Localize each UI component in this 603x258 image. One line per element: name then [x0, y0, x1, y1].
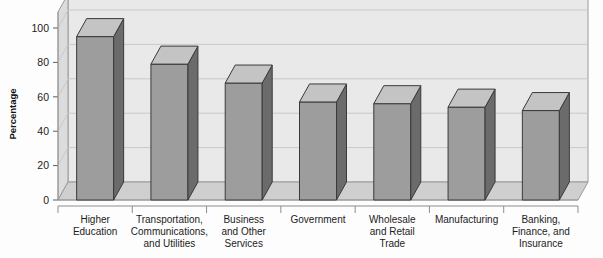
chart-left-wall	[58, 0, 68, 200]
bar-side-face	[114, 19, 124, 200]
ytick-label-60: 60	[37, 91, 49, 103]
bar-side-face	[188, 46, 198, 200]
xtick-label-line: Manufacturing	[435, 214, 498, 225]
xtick-label-line: Trade	[379, 238, 405, 249]
y-axis-title: Percentage	[7, 88, 18, 139]
xtick-label-line: Communications,	[131, 226, 208, 237]
ytick-label-40: 40	[37, 125, 49, 137]
xtick-label-group-1: HigherEducation	[73, 214, 117, 237]
xtick-label-line: Finance, and	[512, 226, 570, 237]
bar-front-face	[77, 37, 114, 200]
bar-7[interactable]	[522, 93, 569, 200]
xtick-label-group-4: Government	[290, 214, 345, 225]
xtick-label-line: Education	[73, 226, 117, 237]
ytick-label-20: 20	[37, 159, 49, 171]
xtick-label-group-6: Manufacturing	[435, 214, 498, 225]
bar-front-face	[300, 102, 337, 200]
chart-canvas: 020406080100HigherEducationTransportatio…	[0, 0, 603, 258]
xtick-label-line: Government	[290, 214, 345, 225]
xtick-label-line: Higher	[80, 214, 110, 225]
xtick-label-line: Transportation,	[136, 214, 203, 225]
bar-side-face	[411, 86, 421, 200]
xtick-label-group-5: Wholesaleand RetailTrade	[369, 214, 416, 249]
bar-6[interactable]	[448, 89, 495, 200]
xtick-label-line: and Retail	[370, 226, 415, 237]
xtick-label-line: Insurance	[519, 238, 563, 249]
bar-front-face	[522, 111, 559, 200]
bar-front-face	[151, 64, 188, 200]
ytick-label-80: 80	[37, 56, 49, 68]
xtick-label-group-3: Businessand OtherServices	[221, 214, 266, 249]
bar-side-face	[262, 65, 272, 200]
bar-side-face	[485, 89, 495, 200]
xtick-label-line: Services	[225, 238, 263, 249]
ytick-label-0: 0	[43, 194, 49, 206]
xtick-label-line: Wholesale	[369, 214, 416, 225]
bar-side-face	[337, 84, 347, 200]
bar-3[interactable]	[225, 65, 272, 200]
bar-2[interactable]	[151, 46, 198, 200]
xtick-label-group-2: Transportation,Communications,and Utilit…	[131, 214, 208, 249]
xtick-label-line: Banking,	[521, 214, 560, 225]
bar-front-face	[374, 104, 411, 200]
xtick-label-group-7: Banking,Finance, andInsurance	[512, 214, 570, 249]
bar-chart: 020406080100HigherEducationTransportatio…	[0, 0, 603, 258]
bar-front-face	[448, 107, 485, 200]
xtick-label-line: and Other	[221, 226, 266, 237]
bar-front-face	[225, 83, 262, 200]
xtick-label-line: and Utilities	[144, 238, 196, 249]
xtick-label-line: Business	[223, 214, 264, 225]
bar-1[interactable]	[77, 19, 124, 200]
bar-5[interactable]	[374, 86, 421, 200]
bar-4[interactable]	[300, 84, 347, 200]
ytick-label-100: 100	[31, 22, 49, 34]
